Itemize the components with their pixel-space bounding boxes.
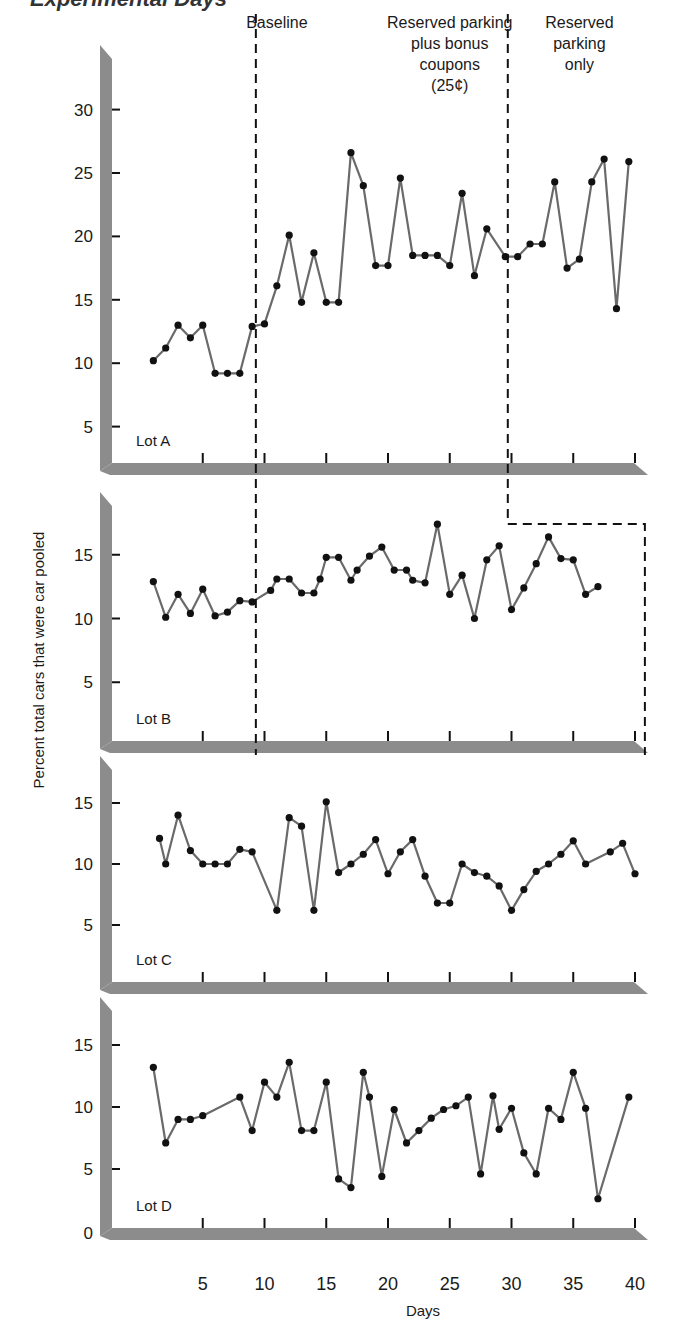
lot-a-data-point (434, 252, 441, 259)
lot-a-data-point (551, 178, 558, 185)
lot-c-data-point (162, 860, 169, 867)
lot-a-data-point (459, 190, 466, 197)
lot-c-data-point (156, 835, 163, 842)
lot-c-data-point (335, 869, 342, 876)
lot-c-data-point (372, 836, 379, 843)
phase-label-1: plus bonus (411, 35, 488, 52)
lot-a-data-point (526, 240, 533, 247)
lot-b-data-point (187, 610, 194, 617)
lot-d-y-tick-label: 15 (74, 1036, 93, 1055)
lot-b-data-point (316, 575, 323, 582)
lot-c-data-point (409, 836, 416, 843)
lot-c-data-point (533, 868, 540, 875)
lot-d-data-point (594, 1195, 601, 1202)
phase-label-0: Baseline (246, 14, 307, 31)
lot-c-data-point (310, 907, 317, 914)
lot-b-label: Lot B (136, 710, 171, 727)
lot-d-data-point (286, 1059, 293, 1066)
lot-a-data-point (372, 262, 379, 269)
lot-a-data-point (483, 225, 490, 232)
lot-d-series-line (153, 1062, 629, 1198)
lot-a-data-point (563, 265, 570, 272)
phase-label-2: only (565, 56, 594, 73)
phase-label-2: Reserved (545, 14, 613, 31)
lot-a-data-point (224, 370, 231, 377)
lot-c-data-point (582, 860, 589, 867)
lot-d-y-tick-label: 10 (74, 1098, 93, 1117)
lot-a-data-point (625, 158, 632, 165)
lot-c-data-point (446, 899, 453, 906)
lot-a-data-point (323, 299, 330, 306)
lot-c-data-point (545, 860, 552, 867)
lot-b-y-tick-label: 15 (74, 546, 93, 565)
lot-d-data-point (452, 1102, 459, 1109)
lot-c-data-point (607, 848, 614, 855)
lot-b-data-point (199, 586, 206, 593)
lot-a-data-point (298, 299, 305, 306)
lot-c-label: Lot C (136, 951, 172, 968)
x-tick-label: 5 (198, 1274, 208, 1294)
lot-c-y-tick-label: 5 (84, 916, 93, 935)
lot-b-data-point (323, 554, 330, 561)
lot-a-series-line (153, 153, 629, 374)
lot-d-data-point (582, 1105, 589, 1112)
lot-d-data-point (335, 1175, 342, 1182)
lot-b-data-point (162, 614, 169, 621)
lot-b-data-point (434, 521, 441, 528)
lot-d-data-point (465, 1093, 472, 1100)
lot-c-data-point (384, 870, 391, 877)
lot-c-data-point (224, 860, 231, 867)
lot-d-data-point (520, 1149, 527, 1156)
lot-b-data-point (545, 533, 552, 540)
lot-c-data-point (619, 840, 626, 847)
chart: 51015202530Lot A51015Lot B51015Lot C0510… (0, 0, 690, 1330)
lot-a-data-point (174, 322, 181, 329)
lot-d-data-point (508, 1105, 515, 1112)
x-tick-label: 25 (440, 1274, 460, 1294)
lot-c-data-point (434, 899, 441, 906)
lot-a-y-tick-label: 20 (74, 227, 93, 246)
lot-a-data-point (199, 322, 206, 329)
lot-a-data-point (212, 370, 219, 377)
lot-c-data-point (187, 847, 194, 854)
lot-b-data-point (310, 589, 317, 596)
lot-d-data-point (625, 1093, 632, 1100)
lot-b-series-line (153, 524, 598, 618)
lot-d-y-tick-label: 5 (84, 1160, 93, 1179)
lot-a-data-point (347, 149, 354, 156)
lot-a-data-point (397, 174, 404, 181)
x-tick-label: 15 (316, 1274, 336, 1294)
lot-d-data-point (150, 1064, 157, 1071)
lot-d-y-tick-label: 0 (84, 1224, 93, 1243)
lot-d-data-point (174, 1116, 181, 1123)
lot-c-data-point (174, 812, 181, 819)
lot-d-data-point (298, 1127, 305, 1134)
lot-a-x-axis-bar (100, 463, 648, 475)
lot-b-data-point (508, 606, 515, 613)
lot-d-data-point (557, 1116, 564, 1123)
lot-c-data-point (323, 798, 330, 805)
x-tick-label: 10 (254, 1274, 274, 1294)
lot-a-data-point (384, 262, 391, 269)
lot-a-data-point (446, 262, 453, 269)
lot-a-data-point (601, 155, 608, 162)
lot-a-y-tick-label: 10 (74, 354, 93, 373)
lot-a-data-point (162, 344, 169, 351)
lot-d-data-point (310, 1127, 317, 1134)
lot-d-y-axis-bar (100, 997, 112, 1236)
lot-d-label: Lot D (136, 1197, 172, 1214)
lot-b-data-point (421, 579, 428, 586)
phase-line-coupons (508, 14, 645, 755)
lot-c-data-point (557, 851, 564, 858)
lot-a-data-point (261, 320, 268, 327)
lot-a-y-axis-bar (100, 45, 112, 471)
lot-c-data-point (483, 873, 490, 880)
lot-c-data-point (298, 823, 305, 830)
lot-b-data-point (496, 542, 503, 549)
lot-b-data-point (249, 598, 256, 605)
lot-a-y-tick-label: 15 (74, 291, 93, 310)
lot-b-x-axis-bar (100, 741, 648, 753)
lot-b-data-point (446, 591, 453, 598)
lot-a-data-point (236, 370, 243, 377)
lot-a-data-point (588, 178, 595, 185)
